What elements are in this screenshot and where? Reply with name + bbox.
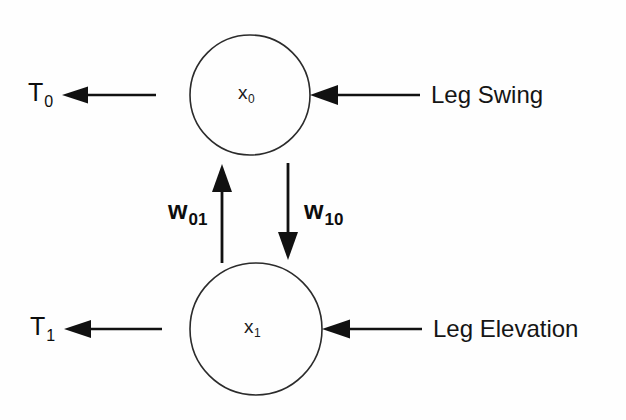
- node-label-x0: x0: [238, 82, 254, 104]
- output-label-t0: T0: [28, 78, 52, 107]
- weight-label-w10-sub: 10: [324, 210, 343, 229]
- weight-label-w01-sub: 01: [188, 210, 207, 229]
- input-arrow-leg-swing: [310, 85, 420, 105]
- output-label-t1: T1: [30, 312, 54, 341]
- weight-label-w01: w01: [168, 196, 206, 225]
- output-label-t1-main: T: [30, 312, 45, 340]
- output-label-t1-sub: 1: [46, 327, 55, 344]
- node-label-x1-sub: 1: [254, 326, 261, 340]
- output-arrow-t0: [62, 87, 156, 104]
- input-label-leg-elevation: Leg Elevation: [433, 315, 578, 343]
- weight-label-w10-main: w: [304, 196, 323, 224]
- weight-arrow-w10: [278, 163, 298, 260]
- diagram-canvas: x0 x1 T0 T1 w01 w10 Leg Swing Leg Elevat…: [0, 0, 626, 420]
- weight-label-w10: w10: [304, 196, 342, 225]
- node-label-x0-main: x: [238, 82, 248, 103]
- weight-label-w01-main: w: [168, 196, 187, 224]
- node-label-x1-main: x: [244, 316, 254, 337]
- node-label-x0-sub: 0: [248, 92, 255, 106]
- input-arrow-leg-elevation: [322, 320, 422, 339]
- input-label-leg-swing: Leg Swing: [431, 81, 543, 109]
- output-label-t0-main: T: [28, 78, 43, 106]
- output-arrow-t1: [64, 320, 162, 338]
- output-label-t0-sub: 0: [44, 93, 53, 110]
- node-label-x1: x1: [244, 316, 260, 338]
- weight-arrow-w01: [212, 164, 232, 263]
